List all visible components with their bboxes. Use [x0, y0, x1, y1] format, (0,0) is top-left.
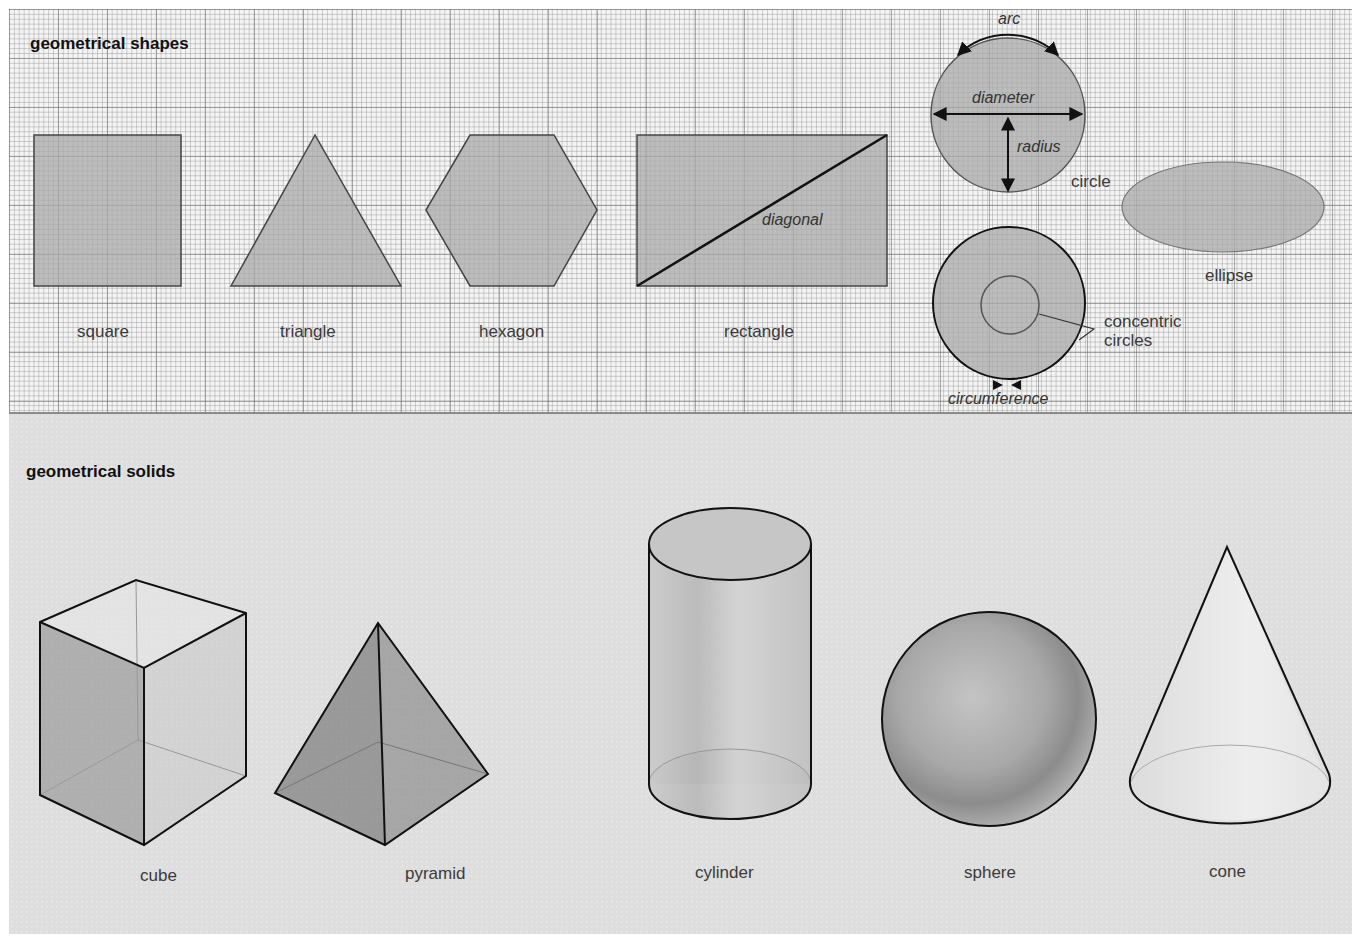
geometry-diagram: geometrical shapes square triangle hexag…: [0, 0, 1357, 937]
solids-heading: geometrical solids: [26, 462, 175, 482]
cylinder-label: cylinder: [695, 863, 754, 883]
radius-label: radius: [1017, 138, 1061, 156]
hexagon-shape: [426, 135, 597, 286]
square-shape: [34, 135, 181, 286]
ellipse-label: ellipse: [1205, 266, 1253, 286]
shapes-drawing: [0, 0, 1357, 937]
cube-label: cube: [140, 866, 177, 886]
diagonal-label: diagonal: [762, 211, 823, 229]
concentric-label-line2: circles: [1104, 331, 1152, 351]
cube-solid: [40, 580, 246, 845]
arc-label: arc: [998, 10, 1020, 28]
cone-solid: [1130, 547, 1330, 824]
triangle-shape: [231, 135, 401, 286]
cylinder-solid: [649, 508, 811, 819]
pyramid-label: pyramid: [405, 864, 465, 884]
concentric-label-line1: concentric: [1104, 312, 1181, 332]
cone-label: cone: [1209, 862, 1246, 882]
rectangle-label: rectangle: [724, 322, 794, 342]
sphere-label: sphere: [964, 863, 1016, 883]
circle-label: circle: [1071, 172, 1111, 192]
circumference-label: circumference: [948, 390, 1048, 408]
triangle-label: triangle: [280, 322, 336, 342]
square-label: square: [77, 322, 129, 342]
circumference-arrows-icon: [993, 380, 1021, 390]
sphere-solid: [882, 612, 1096, 826]
hexagon-label: hexagon: [479, 322, 544, 342]
diameter-label: diameter: [972, 89, 1034, 107]
ellipse-shape: [1122, 162, 1324, 252]
shapes-heading: geometrical shapes: [30, 34, 189, 54]
pyramid-solid: [275, 623, 488, 845]
outer-circle-shape: [933, 227, 1085, 379]
